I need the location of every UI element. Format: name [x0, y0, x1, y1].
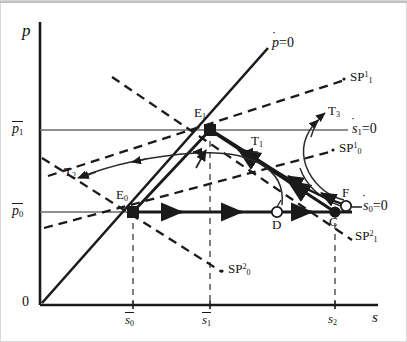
trajectory-label-T2: T2 [64, 165, 76, 178]
arrow-into-T2 [80, 172, 96, 178]
sp-1-0-locus [44, 151, 333, 228]
sp-2-0-label: SP20 [228, 262, 251, 275]
segment-E1-E0 [133, 130, 210, 212]
sp-1-1-locus [48, 80, 345, 176]
point-label-C: C [329, 215, 338, 228]
origin-label: 0 [22, 295, 29, 309]
p-dot-zero-label: ̇ p =0 [272, 36, 294, 50]
sp-1-0-leader-dot [331, 148, 334, 151]
sp-1-0-label: SP10 [339, 141, 362, 154]
diagram-canvas [0, 0, 407, 342]
trajectory-label-T3: T3 [328, 104, 340, 117]
point-marker-E1[interactable] [204, 124, 216, 136]
point-marker-D[interactable] [272, 207, 282, 217]
s1-dot-zero-label: ̇ s 1=0 [352, 122, 377, 136]
s0-dot-zero-label: ̇ s 0=0 [363, 199, 388, 213]
point-label-E1: E1 [194, 106, 206, 119]
phase-diagram-figure: p s 0 p0 p1 s0 s1 s2 ̇ p =0 ̇ s [0, 0, 407, 342]
arc-F-to-T3 [304, 120, 344, 200]
bold-return-path [213, 131, 343, 204]
trajectory-label-T1: T1 [251, 134, 263, 147]
x-tick-label-s1: s1 [202, 312, 211, 326]
x-axis-label: s [372, 310, 378, 325]
point-label-E0: E0 [116, 188, 128, 201]
sp-2-1-label: SP21 [355, 229, 378, 242]
y-tick-label-p1: p1 [12, 121, 23, 136]
x-tick-label-s2: s2 [328, 312, 337, 325]
trajectory-T1 [210, 130, 335, 212]
point-marker-F[interactable] [341, 201, 351, 211]
sp-1-1-leader-dot [342, 77, 345, 80]
y-tick-label-p0: p0 [12, 203, 23, 218]
sp-1-1-label: SP11 [350, 70, 373, 83]
point-label-F: F [342, 186, 349, 199]
sp-2-0-leader-dot [220, 269, 223, 272]
y-axis-label: p [22, 22, 31, 39]
point-marker-E0[interactable] [127, 206, 139, 218]
point-label-D: D [272, 218, 281, 231]
x-tick-label-s0: s0 [125, 312, 134, 326]
